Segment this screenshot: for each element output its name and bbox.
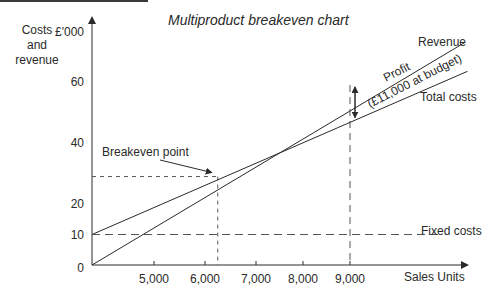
y-tick-label: 60 [71,75,85,89]
x-tick-label: 5,000 [139,272,169,286]
breakeven-chart: Multiproduct breakeven chart Costs and r… [0,0,497,297]
x-tick-label: 9,000 [335,272,365,286]
y-axis-unit: £'000 [55,25,84,39]
breakeven-pointer-arrow [160,160,212,173]
x-tick-label: 7,000 [241,272,271,286]
y-axis-label-line2: and [27,38,47,52]
y-tick-label: 10 [71,228,85,242]
series-label-total-costs: Total costs [420,90,477,104]
breakeven-label: Breakeven point [102,145,189,159]
series-label-fixed-costs: Fixed costs [421,224,482,238]
y-tick-label: 40 [71,136,85,150]
y-axis-label-line1: Costs [22,23,53,37]
y-axis-label-line3: revenue [15,53,59,67]
chart-title: Multiproduct breakeven chart [168,12,350,28]
x-tick-label: 8,000 [288,272,318,286]
series-label-revenue: Revenue [418,35,466,49]
x-axis-label: Sales Units [404,270,465,284]
x-tick-label: 6,000 [190,272,220,286]
y-tick-label: 0 [77,261,84,275]
y-tick-label: 20 [71,197,85,211]
